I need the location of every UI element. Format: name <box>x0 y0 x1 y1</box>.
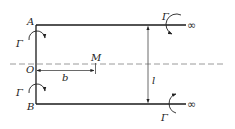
label-l: l <box>152 75 155 86</box>
label-A: A <box>26 16 34 27</box>
infinity-bottom: ∞ <box>187 98 196 111</box>
infinity-top: ∞ <box>187 19 196 32</box>
vortex-diagram: A B O M b l Γ Γ Γ Γ ∞ ∞ <box>0 0 235 129</box>
label-M: M <box>90 52 102 63</box>
label-B: B <box>26 101 34 112</box>
gamma-right-top: Γ <box>161 11 170 22</box>
gamma-right-bottom: Γ <box>160 112 169 123</box>
gamma-left-bottom: Γ <box>15 87 24 98</box>
label-O: O <box>26 64 34 75</box>
vortex-arc-left-bottom-icon <box>29 84 45 93</box>
gamma-left-top: Γ <box>15 38 24 49</box>
label-b: b <box>62 72 68 83</box>
vortex-arc-left-top-icon <box>29 31 45 40</box>
